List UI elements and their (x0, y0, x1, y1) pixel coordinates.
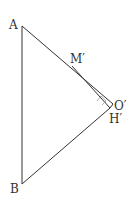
geometry-figure: A B M′ O′ H′ (0, 0, 140, 207)
segment-MH (72, 66, 110, 108)
segment-AO (22, 26, 113, 104)
label-O: O′ (114, 99, 127, 113)
segment-HO (110, 104, 113, 108)
label-H: H′ (109, 112, 122, 126)
label-A: A (8, 18, 18, 32)
label-B: B (10, 182, 19, 196)
label-M: M′ (70, 52, 85, 66)
segment-BH (22, 108, 110, 184)
